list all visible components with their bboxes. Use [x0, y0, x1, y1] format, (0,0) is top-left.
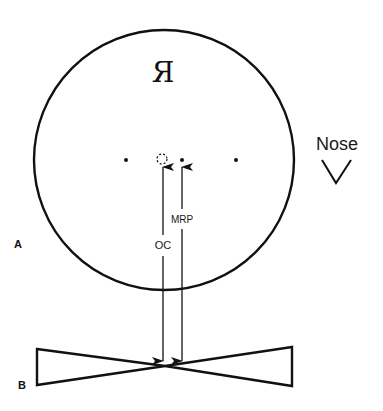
panel-a-label: A — [14, 238, 22, 250]
nose-chevron-icon — [322, 160, 351, 183]
mirrored-r-glyph: Я — [152, 56, 175, 89]
fixation-dot-right — [234, 158, 238, 162]
oc-label: OC — [155, 239, 172, 251]
nose-label: Nose — [316, 134, 358, 154]
bowtie-right-triangle — [165, 347, 292, 386]
optical-center-dashed-circle — [157, 154, 167, 164]
panel-b-label: B — [18, 379, 26, 391]
fixation-dot-left — [124, 158, 128, 162]
mrp-dot — [180, 158, 184, 162]
bowtie-left-triangle — [37, 349, 165, 385]
mrp-label: MRP — [171, 214, 194, 225]
diagram-canvas: Я OC MRP Nose A B — [0, 0, 383, 411]
